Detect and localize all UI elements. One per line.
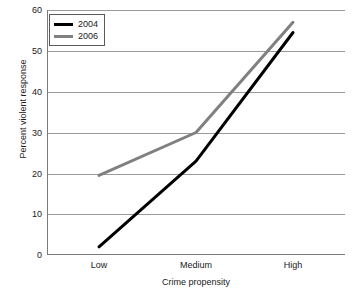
y-tick-label-60: 60 [0,6,42,15]
y-tick-label-10: 10 [0,210,42,219]
line-chart: 60 50 40 30 20 10 0 Percent violent resp… [0,0,352,294]
legend-item-2004: 2004 [54,18,98,30]
legend-swatch-2004 [54,23,73,26]
plot-area: 2004 2006 [47,10,345,255]
x-axis-title: Crime propensity [47,277,345,287]
series-line-2006 [99,22,293,175]
legend-label-2004: 2004 [78,19,98,30]
x-tick-label-low: Low [64,260,134,270]
legend-item-2006: 2006 [54,30,98,42]
y-tick-label-0: 0 [0,251,42,260]
legend: 2004 2006 [49,14,105,46]
legend-label-2006: 2006 [78,31,98,42]
plot-canvas [47,10,345,255]
y-axis-title: Percent violent response [18,29,28,189]
legend-swatch-2006 [54,35,73,38]
x-axis-tick-labels: Low Medium High [47,260,345,274]
x-tick-label-high: High [258,260,328,270]
x-tick-label-medium: Medium [161,260,231,270]
